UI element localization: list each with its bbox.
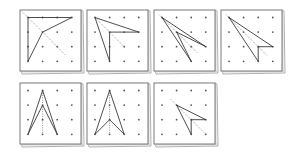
peg (71, 46, 73, 48)
peg (94, 119, 96, 121)
peg (123, 46, 125, 48)
peg (176, 90, 178, 92)
peg (161, 90, 163, 92)
peg (109, 133, 111, 135)
peg (123, 60, 125, 62)
peg (71, 119, 73, 121)
peg (257, 31, 259, 33)
peg (228, 31, 230, 33)
peg (161, 104, 163, 106)
peg (272, 31, 274, 33)
peg (71, 133, 73, 135)
peg (161, 46, 163, 48)
board-2 (87, 10, 151, 74)
board-5 (20, 83, 84, 147)
peg (71, 104, 73, 106)
board-6 (87, 83, 151, 147)
peg (56, 104, 58, 106)
peg (161, 60, 163, 62)
peg (71, 31, 73, 33)
peg (27, 90, 29, 92)
peg (176, 133, 178, 135)
peg (228, 46, 230, 48)
peg (205, 31, 207, 33)
peg (190, 31, 192, 33)
peg (109, 17, 111, 19)
peg (56, 119, 58, 121)
peg (228, 60, 230, 62)
peg (205, 104, 207, 106)
peg (123, 119, 125, 121)
peg (94, 31, 96, 33)
peg (123, 17, 125, 19)
peg (123, 104, 125, 106)
peg (243, 60, 245, 62)
peg (176, 46, 178, 48)
peg (71, 60, 73, 62)
peg (243, 46, 245, 48)
peg (94, 60, 96, 62)
peg (161, 133, 163, 135)
peg (138, 46, 140, 48)
peg (42, 133, 44, 135)
geoboard-figure (0, 0, 294, 161)
peg (257, 17, 259, 19)
board-3 (154, 10, 218, 74)
peg (56, 90, 58, 92)
board-1 (20, 10, 84, 74)
peg (190, 17, 192, 19)
peg (205, 60, 207, 62)
peg (94, 46, 96, 48)
peg (272, 60, 274, 62)
peg (94, 104, 96, 106)
peg (176, 119, 178, 121)
peg (161, 119, 163, 121)
peg (138, 104, 140, 106)
board-4 (221, 10, 285, 74)
peg (56, 31, 58, 33)
peg (71, 90, 73, 92)
peg (56, 60, 58, 62)
peg (138, 119, 140, 121)
peg (176, 17, 178, 19)
peg (205, 90, 207, 92)
peg (27, 119, 29, 121)
peg (138, 90, 140, 92)
peg (123, 90, 125, 92)
peg (161, 31, 163, 33)
peg (42, 60, 44, 62)
peg (190, 90, 192, 92)
peg (190, 104, 192, 106)
peg (272, 17, 274, 19)
peg (42, 46, 44, 48)
peg (138, 60, 140, 62)
peg (205, 17, 207, 19)
board-7 (154, 83, 218, 147)
peg (138, 17, 140, 19)
peg (243, 17, 245, 19)
peg (94, 90, 96, 92)
peg (138, 133, 140, 135)
peg (176, 60, 178, 62)
peg (27, 104, 29, 106)
